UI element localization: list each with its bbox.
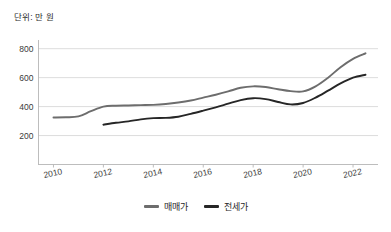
legend-swatch-icon bbox=[204, 205, 219, 207]
y-axis-tick-label: 800 bbox=[19, 44, 33, 54]
y-axis-tick-label: 400 bbox=[19, 102, 33, 112]
line-chart-svg: 200400600800 201020122014201620182020202… bbox=[0, 0, 391, 232]
legend-label: 전세가 bbox=[224, 200, 248, 213]
x-axis-tick-label: 2010 bbox=[43, 166, 64, 180]
series-paths-group bbox=[53, 53, 365, 124]
legend-label: 매매가 bbox=[164, 200, 188, 213]
y-axis-tick-label: 600 bbox=[19, 73, 33, 83]
series-line-전세가 bbox=[103, 75, 365, 125]
x-axis-tick-label: 2012 bbox=[92, 166, 113, 180]
legend-item[interactable]: 전세가 bbox=[204, 200, 248, 213]
x-axis-tick-label: 2020 bbox=[292, 166, 313, 180]
series-line-매매가 bbox=[53, 53, 365, 117]
x-axis-tick-label: 2016 bbox=[192, 166, 213, 180]
y-axis-tick-labels: 200400600800 bbox=[19, 44, 33, 141]
x-axis-tick-label: 2018 bbox=[242, 166, 263, 180]
y-axis-tick-label: 200 bbox=[19, 131, 33, 141]
legend-swatch-icon bbox=[144, 205, 159, 207]
x-axis-tick-labels: 2010201220142016201820202022 bbox=[43, 165, 363, 180]
chart-container: 단위: 만 원 200400600800 2010201220142016201… bbox=[0, 0, 391, 232]
x-axis-tick-label: 2022 bbox=[342, 166, 363, 180]
chart-legend: 매매가전세가 bbox=[0, 200, 391, 213]
x-axis-tick-label: 2014 bbox=[142, 166, 163, 180]
legend-item[interactable]: 매매가 bbox=[144, 200, 188, 213]
